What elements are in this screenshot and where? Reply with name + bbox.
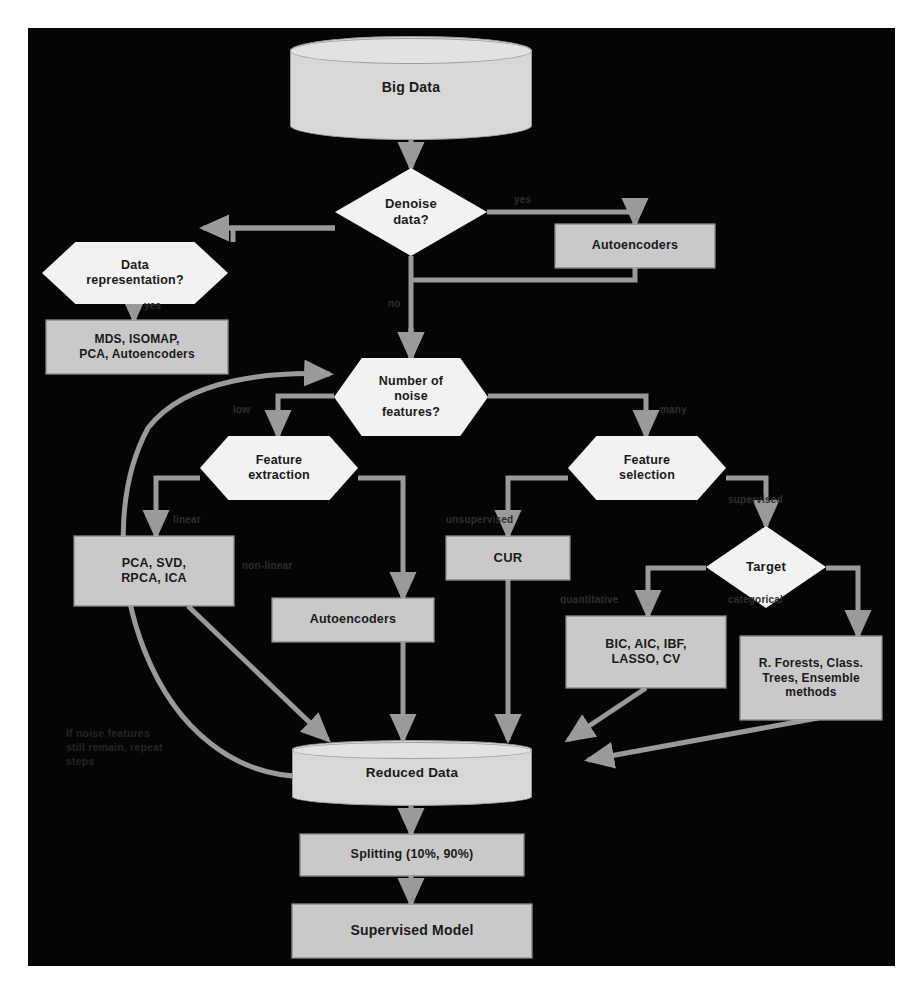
annotation-feedback-note: If noise features still remain, repeat s…	[66, 726, 246, 769]
node-noise-features-label: Number ofnoisefeatures?	[379, 374, 443, 420]
edge-label-denoise-yes: yes	[514, 194, 531, 205]
node-data-representation-label: Datarepresentation?	[86, 258, 183, 289]
edge-extraction-linear	[156, 478, 200, 536]
node-reduced-data[interactable]: Reduced Data	[292, 740, 532, 806]
node-autoencoders-mid-label: Autoencoders	[310, 612, 396, 627]
edge-noise-many	[488, 396, 646, 436]
diagram-canvas: Big Data Denoisedata? Autoencoders Datar…	[28, 28, 895, 966]
edge-target-quantitative	[648, 568, 706, 616]
node-noise-features[interactable]: Number ofnoisefeatures?	[334, 358, 488, 436]
node-r-forests-label: R. Forests, Class.Trees, Ensemblemethods	[759, 656, 863, 700]
node-target-label: Target	[746, 559, 786, 575]
node-autoencoders-top[interactable]: Autoencoders	[555, 224, 715, 268]
node-cur-label: CUR	[494, 550, 523, 566]
edge-extraction-nonlinear	[358, 478, 403, 598]
edge-label-noise-many: many	[660, 404, 687, 415]
edge-label-extraction-nonlinear: non-linear	[242, 560, 292, 571]
node-cur[interactable]: CUR	[446, 536, 570, 580]
node-feature-extraction[interactable]: Featureextraction	[200, 436, 358, 500]
edge-bic-reduced	[568, 688, 646, 740]
edge-label-selection-supervised: supervised	[728, 494, 783, 505]
edge-denoise-yes	[487, 212, 635, 224]
node-supervised-model[interactable]: Supervised Model	[292, 904, 532, 958]
edge-forests-reduced	[588, 718, 818, 760]
node-splitting-label: Splitting (10%, 90%)	[351, 847, 474, 862]
edge-target-categorical	[826, 568, 858, 636]
node-mds-isomap-label: MDS, ISOMAP,PCA, Autoencoders	[79, 332, 195, 361]
edge-label-target-quantitative: quantitative	[560, 594, 619, 605]
diagram-page: Big Data Denoisedata? Autoencoders Datar…	[0, 0, 919, 1002]
node-pca-svd[interactable]: PCA, SVD,RPCA, ICA	[74, 536, 234, 606]
edge-label-denoise-no: no	[388, 298, 401, 309]
edge-label-extraction-linear: linear	[173, 514, 201, 525]
node-big-data[interactable]: Big Data	[290, 36, 532, 140]
node-pca-svd-label: PCA, SVD,RPCA, ICA	[121, 556, 187, 587]
edge-autoenc-top-bus	[411, 268, 635, 280]
node-autoencoders-mid[interactable]: Autoencoders	[272, 598, 434, 642]
node-bic-aic[interactable]: BIC, AIC, IBF,LASSO, CV	[566, 616, 726, 688]
node-feature-selection-label: Featureselection	[619, 453, 675, 484]
edge-label-noise-low: low	[233, 404, 250, 415]
edge-selection-unsupervised	[508, 478, 568, 536]
node-feature-selection[interactable]: Featureselection	[568, 436, 726, 500]
node-r-forests[interactable]: R. Forests, Class.Trees, Ensemblemethods	[740, 636, 882, 720]
node-mds-isomap[interactable]: MDS, ISOMAP,PCA, Autoencoders	[46, 320, 228, 374]
node-data-representation[interactable]: Datarepresentation?	[42, 242, 228, 304]
edge-label-representation-yes: yes	[144, 300, 161, 311]
node-splitting[interactable]: Splitting (10%, 90%)	[300, 834, 524, 876]
node-supervised-model-label: Supervised Model	[350, 922, 473, 939]
edge-noise-low	[278, 396, 334, 436]
node-reduced-data-label: Reduced Data	[366, 765, 458, 781]
node-denoise-label: Denoisedata?	[385, 196, 437, 228]
node-autoencoders-top-label: Autoencoders	[592, 238, 678, 253]
edge-label-target-categorical: categorical	[728, 594, 783, 605]
node-bic-aic-label: BIC, AIC, IBF,LASSO, CV	[605, 637, 687, 668]
node-big-data-label: Big Data	[382, 79, 440, 96]
node-feature-extraction-label: Featureextraction	[248, 453, 310, 484]
edge-label-selection-unsupervised: unsupervised	[446, 514, 513, 525]
